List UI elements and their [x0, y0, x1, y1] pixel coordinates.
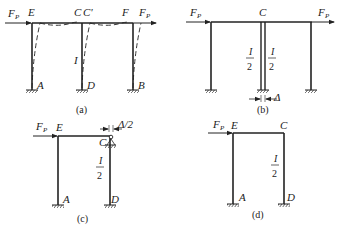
- right-force-label: F: [317, 6, 325, 18]
- panel-b: Δ F P F P C I 2 I 2 (b): [186, 6, 334, 116]
- right-force-subscript: P: [324, 12, 330, 20]
- node-label-d: D: [110, 193, 119, 205]
- panel-c: Δ/2 F P E C A D I 2 (c): [33, 118, 134, 225]
- fixed-support-d: [104, 205, 116, 208]
- node-label-c: C: [280, 119, 288, 131]
- force-subscript: P: [219, 124, 225, 132]
- panel-a: F P E C C' F F P A D B I (a): [5, 6, 156, 116]
- displacement-label: Δ/2: [117, 118, 134, 130]
- node-label-a: A: [36, 79, 44, 91]
- caption-d: (d): [252, 209, 264, 221]
- force-subscript: P: [196, 12, 202, 20]
- fixed-support-a: [227, 204, 239, 207]
- right-force-label: F: [138, 6, 146, 18]
- fixed-support-center: [257, 90, 269, 93]
- inertia-den: 2: [272, 168, 277, 179]
- force-label: F: [212, 118, 220, 130]
- node-label-c: C: [259, 6, 267, 18]
- inertia-num: I: [273, 153, 278, 164]
- caption-a: (a): [76, 104, 87, 116]
- node-label-f: F: [121, 6, 129, 18]
- node-label-c-prime: C': [83, 6, 93, 18]
- fixed-support-a: [52, 205, 64, 208]
- force-subscript: P: [14, 13, 20, 21]
- right-force-subscript: P: [145, 12, 151, 20]
- structural-frames-figure: F P E C C' F F P A D B I (a): [0, 0, 338, 228]
- caption-c: (c): [77, 213, 88, 225]
- column-inertia-label: I: [73, 54, 79, 66]
- gap-dimension: [249, 95, 277, 102]
- node-label-d: D: [86, 79, 95, 91]
- node-label-e: E: [27, 6, 35, 18]
- node-label-a: A: [238, 191, 246, 203]
- force-subscript: P: [42, 126, 48, 134]
- fixed-support-d: [278, 204, 290, 207]
- gap-label: Δ: [273, 91, 280, 103]
- node-label-e: E: [230, 119, 238, 131]
- force-label: F: [35, 120, 43, 132]
- caption-b: (b): [257, 104, 269, 116]
- force-label: F: [7, 7, 15, 19]
- node-label-d: D: [286, 191, 295, 203]
- fixed-support-right: [305, 90, 317, 93]
- left-inertia-num: I: [248, 46, 253, 57]
- node-label-c: C: [99, 136, 107, 148]
- node-label-b: B: [138, 79, 145, 91]
- panel-d: F P E C A D I 2 (d): [208, 118, 295, 221]
- node-label-a: A: [62, 193, 70, 205]
- force-label: F: [189, 6, 197, 18]
- right-inertia-num: I: [270, 46, 275, 57]
- node-label-c: C: [74, 6, 82, 18]
- node-label-e: E: [55, 121, 63, 133]
- fixed-support-left: [205, 90, 217, 93]
- inertia-num: I: [98, 155, 103, 166]
- left-inertia-den: 2: [247, 61, 252, 72]
- right-inertia-den: 2: [269, 61, 274, 72]
- inertia-den: 2: [97, 170, 102, 181]
